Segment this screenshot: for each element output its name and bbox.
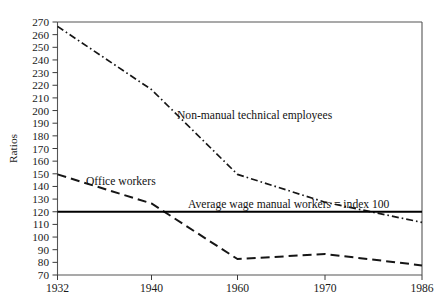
x-tick-label: 1932 bbox=[46, 282, 69, 295]
y-tick-label: 100 bbox=[32, 231, 49, 243]
y-tick-label: 230 bbox=[32, 67, 49, 79]
y-tick-label: 260 bbox=[32, 29, 49, 41]
y-tick-label: 70 bbox=[38, 269, 50, 281]
y-tick-label: 80 bbox=[38, 256, 50, 268]
annotation-office-workers: Office workers bbox=[86, 175, 156, 188]
y-axis-ticks bbox=[53, 22, 58, 275]
y-tick-label: 240 bbox=[32, 54, 49, 66]
y-tick-label: 130 bbox=[32, 193, 49, 205]
y-tick-label: 110 bbox=[33, 218, 50, 230]
x-tick-label: 1970 bbox=[313, 282, 336, 295]
x-tick-label: 1986 bbox=[410, 282, 433, 295]
chart-figure: 270 260 250 240 230 220 210 200 190 180 … bbox=[0, 0, 448, 305]
y-tick-label: 190 bbox=[32, 117, 49, 129]
annotation-non-manual-technical-employees: Non-manual technical employees bbox=[177, 109, 333, 122]
chart-background bbox=[0, 0, 448, 305]
y-tick-label: 180 bbox=[32, 130, 49, 142]
y-tick-label: 270 bbox=[32, 16, 49, 28]
annotation-average-wage-manual-workers: Average wage manual workers = index 100 bbox=[188, 198, 390, 211]
y-tick-label: 160 bbox=[32, 155, 49, 167]
x-tick-label: 1940 bbox=[140, 282, 163, 295]
x-tick-label: 1960 bbox=[226, 282, 249, 295]
y-tick-label: 150 bbox=[32, 168, 49, 180]
y-tick-label: 200 bbox=[32, 105, 49, 117]
y-tick-label: 120 bbox=[32, 206, 49, 218]
y-tick-label: 170 bbox=[32, 143, 49, 155]
y-axis-title: Ratios bbox=[7, 133, 19, 163]
y-tick-label: 250 bbox=[32, 41, 49, 53]
y-axis-tick-labels: 270 260 250 240 230 220 210 200 190 180 … bbox=[32, 16, 49, 281]
chart-canvas: 270 260 250 240 230 220 210 200 190 180 … bbox=[0, 0, 448, 305]
y-tick-label: 140 bbox=[32, 180, 49, 192]
y-tick-label: 210 bbox=[32, 92, 49, 104]
y-tick-label: 220 bbox=[32, 79, 49, 91]
y-tick-label: 90 bbox=[38, 244, 50, 256]
